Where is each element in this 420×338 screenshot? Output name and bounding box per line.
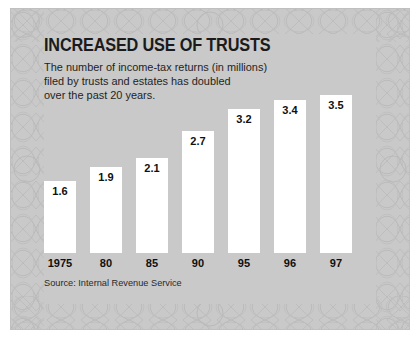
x-axis-label: 90 xyxy=(183,256,213,269)
chart-title: INCREASED USE OF TRUSTS xyxy=(44,36,314,55)
x-axis-label: 1975 xyxy=(45,256,75,269)
bar-value-label: 1.6 xyxy=(45,184,75,197)
figure-root: INCREASED USE OF TRUSTS The number of in… xyxy=(0,0,420,338)
bar-value-label: 3.4 xyxy=(275,103,305,116)
bar xyxy=(182,131,214,253)
source-note: Source: Internal Revenue Service xyxy=(44,277,182,288)
bar-value-label: 2.1 xyxy=(137,161,167,174)
x-axis-label: 95 xyxy=(229,256,259,269)
bar-value-label: 2.7 xyxy=(183,134,213,147)
bar xyxy=(228,109,260,253)
bar-value-label: 1.9 xyxy=(91,170,121,183)
x-axis-label: 80 xyxy=(91,256,121,269)
x-axis-label: 97 xyxy=(321,256,351,269)
bar xyxy=(320,95,352,253)
x-axis-label: 96 xyxy=(275,256,305,269)
bar xyxy=(274,100,306,253)
x-axis-label: 85 xyxy=(137,256,167,269)
bar-chart-plot-area: 1.61.92.12.73.23.43.5 xyxy=(44,86,364,253)
bar-value-label: 3.2 xyxy=(229,112,259,125)
bar-value-label: 3.5 xyxy=(321,98,351,111)
x-axis-labels: 1975808590959697 xyxy=(44,256,364,272)
